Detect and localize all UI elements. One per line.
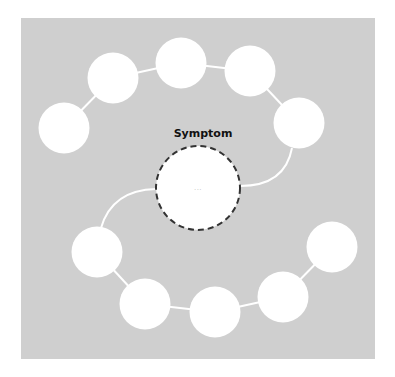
node-4 xyxy=(225,46,276,97)
node-9 xyxy=(258,272,309,323)
node-7 xyxy=(120,279,171,330)
node-5 xyxy=(274,98,325,149)
node-10 xyxy=(307,222,358,273)
node-6 xyxy=(72,227,123,278)
node-2 xyxy=(88,53,139,104)
node-1 xyxy=(39,103,90,154)
center-node-title: Symptom xyxy=(174,127,233,140)
node-3 xyxy=(156,38,207,89)
center-node-content: ... xyxy=(194,184,202,192)
connector-5-center xyxy=(240,148,292,186)
node-8 xyxy=(190,287,241,338)
connector-center-6 xyxy=(101,189,156,228)
